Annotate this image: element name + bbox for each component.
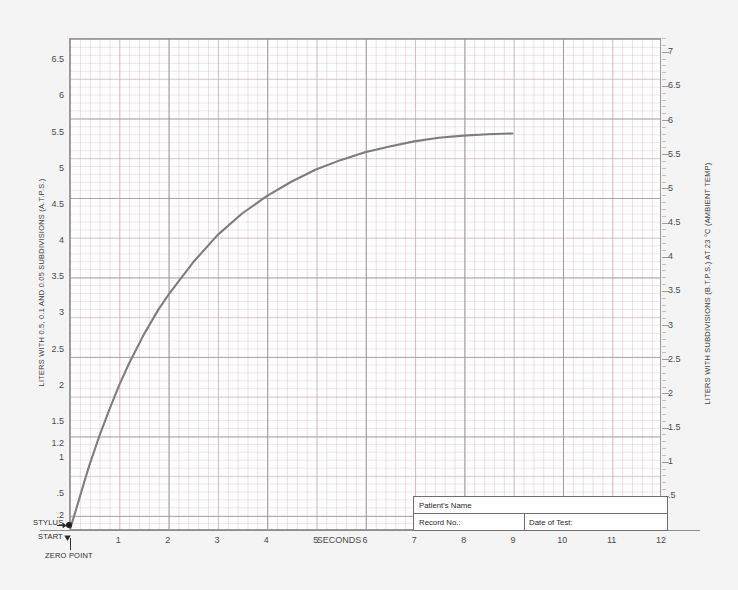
ruler-hatch — [662, 332, 666, 333]
ruler-hatch — [662, 455, 666, 456]
ruler-hatch — [662, 387, 666, 388]
right-tick-3p5: 3.5 — [668, 286, 681, 295]
record-date-row[interactable]: Record No.: Date of Test: — [414, 514, 667, 531]
ruler-hatch — [662, 318, 666, 319]
ruler-hatch — [662, 72, 666, 73]
ruler-hatch — [662, 380, 666, 381]
x-tick-9: 9 — [510, 535, 515, 545]
left-axis-title: LITERS WITH 0.5, 0.1 AND 0.05 SUBDIVISIO… — [37, 178, 46, 388]
ruler-hatch — [662, 106, 666, 107]
right-tick-4p5: 4.5 — [668, 218, 681, 227]
ruler-hatch — [662, 93, 666, 94]
right-tick-2: 2 — [668, 389, 673, 398]
start-label: START — [38, 532, 63, 541]
right-tick-1: 1 — [668, 457, 673, 466]
ruler-hatch — [662, 373, 666, 374]
ruler-hatch — [662, 270, 666, 271]
left-tick-6: 6 — [59, 91, 64, 100]
ruler-hatch — [662, 195, 666, 196]
ruler-hatch — [662, 127, 666, 128]
ruler-hatch — [662, 113, 666, 114]
ruler-hatch — [662, 264, 666, 265]
left-tick-1p5: 1.5 — [51, 417, 64, 426]
right-tick-6: 6 — [668, 116, 673, 125]
date-of-test-label: Date of Test: — [524, 518, 573, 527]
ruler-hatch — [662, 209, 666, 210]
ruler-hatch — [662, 79, 666, 80]
left-tick-2: 2 — [59, 381, 64, 390]
info-box-divider — [524, 514, 525, 531]
spirogram-curve — [70, 39, 660, 529]
ruler-hatch — [662, 175, 666, 176]
x-tick-10: 10 — [557, 535, 567, 545]
ruler-hatch — [662, 161, 666, 162]
ruler-hatch — [662, 229, 666, 230]
ruler-hatch — [662, 339, 666, 340]
ruler-hatch — [662, 236, 666, 237]
x-tick-7: 7 — [412, 535, 417, 545]
ruler-hatch — [662, 441, 666, 442]
right-tick-6p5: 6.5 — [668, 81, 681, 90]
ruler-hatch — [662, 284, 666, 285]
left-tick-6p5: 6.5 — [51, 55, 64, 64]
right-tick-1p5: 1.5 — [668, 423, 681, 432]
patient-name-label: Patient's Name — [414, 501, 472, 510]
ruler-hatch — [662, 59, 666, 60]
left-tick-3: 3 — [59, 308, 64, 317]
stylus-dot-marker — [66, 522, 72, 528]
x-axis-title: SECONDS — [317, 535, 362, 545]
ruler-hatch — [662, 400, 666, 401]
ruler-hatch — [662, 366, 666, 367]
plot-area — [69, 38, 661, 530]
right-tick-2p5: 2.5 — [668, 355, 681, 364]
x-tick-11: 11 — [607, 535, 616, 545]
ruler-hatch — [662, 216, 666, 217]
left-tick-4: 4 — [59, 236, 64, 245]
ruler-hatch — [662, 100, 666, 101]
right-tick-4: 4 — [668, 252, 673, 261]
right-tick-5: 5 — [668, 184, 673, 193]
zero-point-label: ZERO POINT — [45, 551, 93, 560]
ruler-hatch — [662, 65, 666, 66]
stylus-arrow-icon — [57, 523, 66, 528]
x-tick-6: 6 — [362, 535, 367, 545]
ruler-hatch — [662, 475, 666, 476]
ruler-hatch — [662, 434, 666, 435]
right-tick-p5: .5 — [668, 491, 676, 500]
x-tick-8: 8 — [461, 535, 466, 545]
x-tick-3: 3 — [214, 535, 219, 545]
ruler-hatch — [662, 147, 666, 148]
left-tick-3p5: 3.5 — [51, 272, 64, 281]
ruler-hatch — [662, 305, 666, 306]
left-tick-5p5: 5.5 — [51, 128, 64, 137]
right-axis-title: LITERS WITH SUBDIVISIONS (B.T.P.S.) AT 2… — [703, 175, 712, 405]
ruler-hatch — [662, 407, 666, 408]
zero-point-leader-line — [70, 538, 71, 550]
ruler-hatch — [662, 414, 666, 415]
x-tick-1: 1 — [116, 535, 121, 545]
patient-info-box[interactable]: Patient's Name Record No.: Date of Test: — [413, 496, 668, 531]
ruler-hatch — [662, 469, 666, 470]
ruler-hatch — [662, 250, 666, 251]
ruler-hatch — [662, 141, 666, 142]
right-tick-3: 3 — [668, 321, 673, 330]
ruler-hatch — [662, 298, 666, 299]
right-tick-5p5: 5.5 — [668, 150, 681, 159]
ruler-hatch — [662, 421, 666, 422]
left-tick-2p5: 2.5 — [51, 345, 64, 354]
ruler-hatch — [662, 448, 666, 449]
record-no-label: Record No.: — [414, 518, 461, 527]
ruler-hatch — [662, 489, 666, 490]
x-tick-12: 12 — [656, 535, 666, 545]
ruler-hatch — [662, 311, 666, 312]
ruler-hatch — [662, 45, 666, 46]
patient-name-row[interactable]: Patient's Name — [414, 497, 667, 514]
ruler-hatch — [662, 168, 666, 169]
ruler-hatch — [662, 202, 666, 203]
left-tick-p5: .5 — [56, 489, 64, 498]
ruler-hatch — [662, 38, 666, 39]
x-tick-4: 4 — [264, 535, 269, 545]
ruler-hatch — [662, 346, 666, 347]
ruler-hatch — [662, 352, 666, 353]
ruler-hatch — [662, 482, 666, 483]
